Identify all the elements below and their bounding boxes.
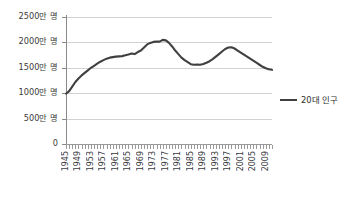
x-tick-mark	[132, 145, 133, 149]
series-line-20dae-ingu	[66, 17, 272, 144]
x-tick-label: 2005	[249, 151, 257, 171]
x-tick-mark	[197, 145, 198, 149]
chart-container: 0500만 명1000만 명1500만 명2000만 명2500만 명 1945…	[0, 0, 350, 213]
x-tick-mark	[100, 145, 101, 149]
x-tick-mark	[210, 145, 211, 149]
x-tick-mark	[272, 145, 273, 149]
x-tick-mark	[178, 145, 179, 149]
x-tick-label: 1981	[174, 151, 182, 171]
x-tick-mark	[69, 145, 70, 149]
x-tick-mark	[88, 145, 89, 149]
x-tick-mark	[250, 145, 251, 149]
x-tick-mark	[203, 145, 204, 149]
legend-label-20dae-ingu: 20대 인구	[301, 96, 338, 104]
x-tick-label: 1973	[149, 151, 157, 171]
x-tick-label: 1989	[199, 151, 207, 171]
x-tick-mark	[147, 145, 148, 149]
x-tick-label: 2001	[237, 151, 245, 171]
x-tick-mark	[141, 145, 142, 149]
legend: 20대 인구	[280, 96, 338, 104]
x-tick-label: 1969	[137, 151, 145, 171]
y-tick-label: 2000만 명	[0, 37, 58, 45]
x-tick-mark	[222, 145, 223, 149]
x-tick-mark	[181, 145, 182, 149]
x-tick-mark	[266, 145, 267, 149]
x-tick-mark	[160, 145, 161, 149]
x-tick-label: 1965	[124, 151, 132, 171]
x-tick-label: 1961	[112, 151, 120, 171]
x-tick-mark	[194, 145, 195, 149]
x-tick-mark	[228, 145, 229, 149]
x-tick-mark	[185, 145, 186, 149]
x-tick-mark	[256, 145, 257, 149]
x-tick-mark	[188, 145, 189, 149]
y-tick-label: 2500만 명	[0, 12, 58, 20]
x-tick-mark	[157, 145, 158, 149]
x-tick-mark	[107, 145, 108, 149]
x-tick-mark	[103, 145, 104, 149]
x-tick-mark	[247, 145, 248, 149]
x-tick-mark	[216, 145, 217, 149]
x-tick-mark	[125, 145, 126, 149]
x-tick-mark	[94, 145, 95, 149]
x-tick-mark	[119, 145, 120, 149]
x-tick-mark	[116, 145, 117, 149]
x-tick-mark	[260, 145, 261, 149]
x-tick-mark	[241, 145, 242, 149]
x-tick-mark	[150, 145, 151, 149]
series-path	[66, 40, 272, 94]
y-tick-label: 500만 명	[0, 114, 58, 122]
x-tick-label: 1997	[224, 151, 232, 171]
x-tick-mark	[128, 145, 129, 149]
x-tick-label: 1977	[162, 151, 170, 171]
x-tick-mark	[78, 145, 79, 149]
x-tick-mark	[97, 145, 98, 149]
x-tick-mark	[169, 145, 170, 149]
x-tick-mark	[110, 145, 111, 149]
x-tick-mark	[219, 145, 220, 149]
x-tick-mark	[166, 145, 167, 149]
x-tick-mark	[225, 145, 226, 149]
x-tick-mark	[72, 145, 73, 149]
y-tick-label: 1000만 명	[0, 88, 58, 96]
x-tick-mark	[163, 145, 164, 149]
x-tick-mark	[66, 145, 67, 149]
x-tick-mark	[191, 145, 192, 149]
x-tick-mark	[238, 145, 239, 149]
x-tick-mark	[269, 145, 270, 149]
x-tick-mark	[113, 145, 114, 149]
x-tick-mark	[91, 145, 92, 149]
x-tick-mark	[244, 145, 245, 149]
x-tick-label: 1985	[187, 151, 195, 171]
x-tick-mark	[263, 145, 264, 149]
x-tick-mark	[253, 145, 254, 149]
x-tick-mark	[135, 145, 136, 149]
y-tick-label: 0	[0, 139, 58, 147]
legend-swatch-20dae-ingu	[280, 99, 297, 101]
x-tick-mark	[213, 145, 214, 149]
x-tick-label: 1949	[74, 151, 82, 171]
x-tick-label: 1945	[62, 151, 70, 171]
x-tick-mark	[172, 145, 173, 149]
x-tick-mark	[138, 145, 139, 149]
x-tick-mark	[122, 145, 123, 149]
x-tick-mark	[231, 145, 232, 149]
x-tick-label: 2009	[262, 151, 270, 171]
x-tick-label: 1953	[87, 151, 95, 171]
x-tick-mark	[144, 145, 145, 149]
y-tick-label: 1500만 명	[0, 63, 58, 71]
x-tick-mark	[75, 145, 76, 149]
x-tick-mark	[235, 145, 236, 149]
x-tick-mark	[153, 145, 154, 149]
x-tick-mark	[175, 145, 176, 149]
x-tick-mark	[206, 145, 207, 149]
x-tick-mark	[200, 145, 201, 149]
x-tick-mark	[85, 145, 86, 149]
x-tick-label: 1957	[99, 151, 107, 171]
x-tick-label: 1993	[212, 151, 220, 171]
x-tick-mark	[82, 145, 83, 149]
